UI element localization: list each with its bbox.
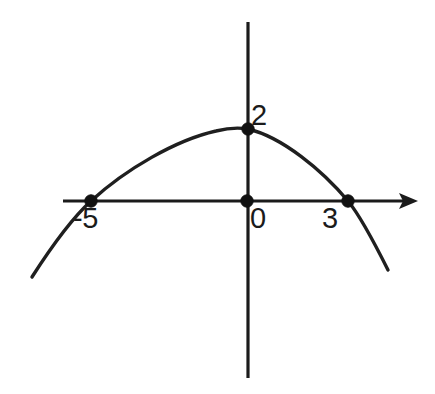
point-root-right — [342, 195, 354, 207]
label-origin: 0 — [250, 204, 266, 233]
parabola-figure: 2 -5 0 3 — [0, 0, 435, 394]
label-y-intercept: 2 — [251, 101, 267, 130]
graph-canvas — [0, 0, 435, 394]
label-root-left: -5 — [73, 204, 98, 233]
label-root-right: 3 — [322, 204, 338, 233]
